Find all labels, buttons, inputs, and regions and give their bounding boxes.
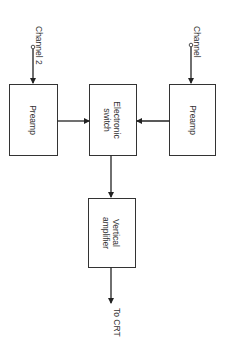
vertical-amplifier-block: Vertical amplifier xyxy=(89,199,136,268)
electronic-switch-block: Electronic switch xyxy=(90,85,137,156)
preamp-channel-1-label: Preamp xyxy=(188,105,198,135)
preamp-channel-2-label: Preamp xyxy=(28,105,38,135)
electronic-switch-label-line1: Electronic xyxy=(112,101,122,139)
vertical-amplifier-label-line1: Vertical xyxy=(111,219,121,247)
block-diagram: Channel 2 Channel Preamp Electronic swit… xyxy=(0,0,229,359)
preamp-channel-1-block: Preamp xyxy=(170,85,216,156)
preamp-channel-2-block: Preamp xyxy=(10,85,58,156)
to-crt-label: To CRT xyxy=(112,308,122,337)
electronic-switch-label-line2: switch xyxy=(102,108,112,132)
channel-1-input: Channel xyxy=(189,26,202,83)
channel-2-label: Channel 2 xyxy=(34,26,44,65)
vertical-amplifier-label-line2: amplifier xyxy=(101,217,111,249)
channel-2-input: Channel 2 xyxy=(31,26,44,83)
channel-1-label: Channel xyxy=(192,26,202,58)
